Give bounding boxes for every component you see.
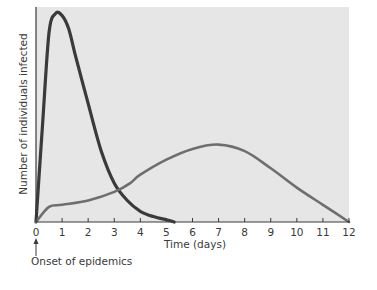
onset-annotation: Onset of epidemics [31, 255, 132, 267]
x-axis-label: Time (days) [163, 238, 226, 250]
y-axis-label: Number of individuals infected [17, 33, 29, 194]
x-tick-label: 1 [59, 226, 66, 238]
x-tick-label: 10 [290, 226, 303, 238]
x-tick-label: 2 [85, 226, 92, 238]
x-tick-label: 6 [189, 226, 196, 238]
x-tick-label: 11 [316, 226, 329, 238]
x-tick-label: 0 [33, 226, 40, 238]
x-tick-label: 3 [111, 226, 118, 238]
x-tick-label: 12 [342, 226, 355, 238]
x-tick-label: 4 [137, 226, 144, 238]
x-tick-label: 9 [267, 226, 274, 238]
x-tick-label: 5 [163, 226, 170, 238]
onset-arrow-icon [34, 238, 39, 244]
x-tick-label: 7 [215, 226, 222, 238]
epidemic-chart: 0123456789101112 Number of individuals i… [0, 0, 377, 290]
x-tick-label: 8 [241, 226, 248, 238]
